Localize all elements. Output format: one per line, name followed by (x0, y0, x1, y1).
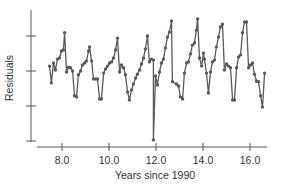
data-point (183, 71, 186, 74)
data-point (48, 64, 51, 67)
data-point (116, 36, 119, 39)
data-point (217, 35, 220, 38)
data-point (124, 73, 127, 76)
data-point (130, 88, 133, 91)
data-point (233, 98, 236, 101)
data-point (193, 41, 196, 44)
data-point (132, 82, 135, 85)
data-point (114, 48, 117, 51)
data-point (166, 35, 169, 38)
data-point (221, 22, 224, 25)
data-point (110, 60, 113, 63)
data-point (75, 95, 78, 98)
data-point (104, 67, 107, 70)
data-point (200, 64, 203, 67)
data-point (247, 66, 250, 69)
x-tick-label: 10.0 (99, 154, 120, 166)
residual-line (50, 19, 265, 140)
data-point (71, 69, 74, 72)
data-point (219, 25, 222, 28)
data-point (164, 46, 167, 49)
data-point (156, 83, 159, 86)
y-axis (26, 10, 36, 142)
y-axis-title: Residuals (3, 55, 15, 101)
data-point (251, 61, 254, 64)
data-point (213, 58, 216, 61)
data-point (245, 20, 248, 23)
data-point (79, 69, 82, 72)
data-point (235, 66, 238, 69)
data-point (88, 45, 91, 48)
data-point (50, 81, 53, 84)
data-point (198, 56, 201, 59)
data-point (241, 31, 244, 34)
data-point (122, 66, 125, 69)
x-axis-title: Years since 1990 (115, 169, 195, 181)
data-point (257, 80, 260, 83)
data-point (202, 51, 205, 54)
data-point (209, 70, 212, 73)
data-point (102, 71, 105, 74)
x-tick-label: 12.0 (146, 154, 167, 166)
data-point (189, 52, 192, 55)
data-point (85, 59, 88, 62)
data-point (259, 94, 262, 97)
data-point (134, 76, 137, 79)
data-point (152, 138, 155, 141)
data-point (138, 68, 141, 71)
residual-series (48, 17, 266, 141)
data-point (58, 56, 61, 59)
x-tick-label: 14.0 (193, 154, 214, 166)
data-point (106, 64, 109, 67)
data-point (77, 73, 80, 76)
data-point (87, 49, 90, 52)
residuals-chart: 8.010.012.014.016.0 Residuals Years sinc… (0, 0, 281, 192)
data-point (152, 58, 155, 61)
x-ticks: 8.010.012.014.016.0 (55, 143, 261, 166)
data-point (100, 97, 103, 100)
data-point (239, 53, 242, 56)
data-point (181, 97, 184, 100)
data-point (207, 91, 210, 94)
data-point (203, 57, 206, 60)
x-axis: 8.010.012.014.016.0 (37, 143, 267, 166)
data-point (171, 80, 174, 83)
data-point (128, 98, 131, 101)
data-point (253, 73, 256, 76)
data-point (54, 68, 57, 71)
data-point (62, 48, 65, 51)
data-point (144, 47, 147, 50)
data-point (69, 66, 72, 69)
data-point (63, 31, 66, 34)
data-point (195, 28, 198, 31)
data-point (136, 73, 139, 76)
data-point (90, 59, 93, 62)
data-point (154, 74, 157, 77)
data-point (229, 66, 232, 69)
data-point (261, 105, 264, 108)
data-point (126, 90, 129, 93)
x-tick-label: 8.0 (55, 154, 70, 166)
data-point (177, 84, 180, 87)
data-point (263, 71, 266, 74)
data-point (223, 68, 226, 71)
data-point (146, 34, 149, 37)
data-point (170, 19, 173, 22)
data-point (52, 61, 55, 64)
data-point (196, 17, 199, 20)
data-point (112, 56, 115, 59)
data-point (120, 63, 123, 66)
data-point (187, 60, 190, 63)
data-point (65, 70, 68, 73)
data-point (148, 60, 151, 63)
data-point (160, 61, 163, 64)
data-point (205, 71, 208, 74)
data-point (118, 70, 121, 73)
data-point (162, 57, 165, 60)
data-point (168, 30, 171, 33)
data-point (140, 62, 143, 65)
data-point (215, 45, 218, 48)
x-tick-label: 16.0 (240, 154, 261, 166)
data-point (158, 70, 161, 73)
data-point (142, 56, 145, 59)
